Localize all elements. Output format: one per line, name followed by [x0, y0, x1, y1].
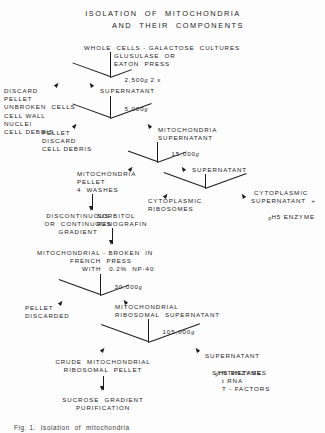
spin-2-unit: g [144, 106, 147, 112]
spin-5-unit: g [191, 329, 194, 335]
node-final-tfactors: T - FACTORS [222, 385, 270, 393]
spin-3-unit: g [196, 151, 199, 157]
node-pellet-discard-debris: PELLET DISCARD CELL DEBRIS [42, 129, 92, 154]
node-cyto-supernatant-line1: CYTOPLASMIC [254, 189, 308, 197]
node-supernatant-2: SUPERNATANT [192, 166, 247, 174]
node-mito-ribosomal-supernatant: MITOCHONDRIAL RIBOSOMAL SUPERNATANT [115, 303, 220, 319]
label-lysis-method-1: GLUSULASE OR [114, 52, 176, 60]
connector-start-stem [110, 52, 111, 77]
connector-frenchpress-stem [100, 274, 101, 295]
node-cyto-supernatant-enzyme: pH5 ENZYME [258, 205, 315, 232]
spin-1-unit: g [144, 77, 147, 83]
node-crude-mito-ribosomal-pellet: CRUDE MITOCHONDRIAL RIBOSOMAL PELLET [55, 358, 150, 374]
node-pellet-discarded: PELLET DISCARDED [25, 304, 70, 320]
label-lysis-method-2: EATON PRESS [114, 60, 170, 68]
spin-1-value: 2,500 [124, 76, 144, 83]
connector-mitoribo-stem [148, 319, 149, 342]
connector-fork4-right [205, 173, 247, 189]
node-final-trna: t RNA [222, 377, 243, 385]
figure-title-line-2: AND THEIR COMPONENTS [112, 20, 244, 31]
node-final-synthetases: SYNTHETASES [212, 369, 267, 377]
arrowhead-fork1-right [88, 82, 94, 88]
node-final-supernatant: SUPERNATANT [205, 352, 260, 360]
node-mitochondria-supernatant: MITOCHONDRIA SUPERNATANT [158, 126, 217, 142]
figure-caption: Fig. 1. Isolation of mitochondria [14, 424, 130, 431]
figure-title-line-1: ISOLATION OF MITOCHONDRIA [85, 8, 241, 19]
arrowhead-crude-down [100, 386, 104, 391]
arrowhead-fork2-right [146, 123, 152, 129]
arrowhead-fork6-right [194, 347, 200, 353]
node-mitochondria-pellet: MITOCHONDRIA PELLET 4 WASHES [77, 170, 136, 195]
node-french-press-line1: MITOCHONDRIAL - BROKEN IN [37, 249, 153, 257]
node-french-press-line3: WITH 0.2% NP-40 [82, 265, 154, 273]
node-supernatant-1: SUPERNATANT [100, 87, 155, 95]
connector-fork4-left [164, 172, 206, 188]
arrowhead-gradient-down [109, 240, 113, 245]
flowchart-figure: ISOLATION OF MITOCHONDRIA AND THEIR COMP… [0, 0, 325, 433]
node-cytoplasmic-ribosomes: CYTOPLASMIC RIBOSOMES [148, 197, 202, 213]
spin-1-times: 2 x [150, 76, 161, 83]
arrowhead-fork6-left [100, 347, 106, 353]
arrowhead-mitopellet-down [89, 206, 93, 211]
node-whole-cells: WHOLE CELLS - GALACTOSE CULTURES [84, 44, 240, 52]
spin-4-unit: g [139, 284, 142, 290]
connector-fork6-left [101, 324, 148, 342]
arrowhead-fork4-right [240, 193, 246, 199]
node-french-press-line2: FRENCH PRESS [70, 257, 132, 265]
connector-fork2-left [72, 103, 110, 118]
connector-fork5-left [59, 279, 101, 295]
connector-supernatant2-stem [205, 174, 206, 188]
node-sucrose-gradient-purification: SUCROSE GRADIENT PURIFICATION [62, 396, 143, 412]
connector-fork1-left [72, 62, 110, 77]
connector-fork3-left [128, 150, 157, 162]
connector-supernatant1-stem [110, 96, 111, 118]
ph5-label: H5 ENZYME [271, 213, 315, 220]
node-gradient-right: SORBITOL RENOGRAFIN [97, 212, 147, 228]
node-cyto-supernatant-line2: SUPERNATANT + [251, 197, 316, 205]
connector-mitosup-stem [157, 142, 158, 162]
